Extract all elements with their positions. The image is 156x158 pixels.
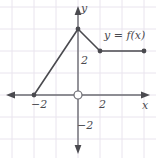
plot-area — [0, 0, 156, 158]
origin-marker — [74, 91, 82, 99]
function-graph-figure: y x −2 2 2 −2 y = f(x) — [0, 0, 156, 158]
x-axis-arrow-right — [141, 92, 150, 99]
function-curve-label: y = f(x) — [104, 30, 145, 41]
y-axis-arrow-down — [75, 145, 82, 154]
x-tick-label-negative-2: −2 — [31, 99, 47, 110]
y-tick-label-negative-2: −2 — [77, 120, 93, 131]
x-tick-label-positive-2: 2 — [99, 99, 106, 110]
point-right-endpoint — [142, 49, 147, 54]
x-axis-arrow-left — [6, 92, 15, 99]
y-tick-label-positive-2: 2 — [81, 55, 88, 66]
point-corner — [98, 49, 103, 54]
y-axis-label: y — [81, 3, 87, 14]
x-axis-label: x — [142, 100, 148, 111]
point-peak — [76, 27, 81, 32]
point-left-endpoint — [32, 93, 37, 98]
